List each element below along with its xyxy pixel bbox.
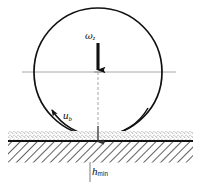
diagram-canvas [0, 0, 201, 188]
h-subscript: min [98, 170, 109, 177]
u-b-label: ub [63, 110, 72, 122]
omega-subscript: z [93, 34, 96, 41]
omega-symbol: ω [85, 30, 93, 41]
u-subscript: b [69, 115, 73, 122]
ball-on-surface-diagram: ωz ub hmin [0, 0, 201, 188]
omega-z-label: ωz [85, 31, 95, 42]
rough-surface-band [8, 131, 193, 141]
h-min-label: hmin [92, 166, 108, 178]
hatched-solid-body [8, 142, 193, 163]
